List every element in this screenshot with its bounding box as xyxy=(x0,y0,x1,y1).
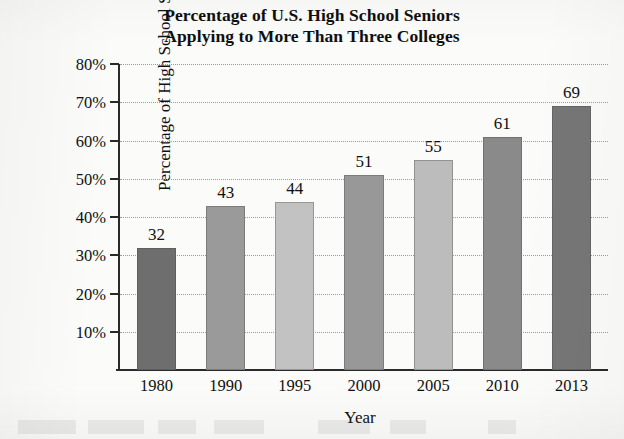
chart-title-line-1: Percentage of U.S. High School Seniors xyxy=(0,5,624,26)
bars-group: 3219804319904419955120005520056120106920… xyxy=(118,64,602,370)
bar-value-label: 69 xyxy=(538,83,605,103)
plot-area: 10%20%30%40%50%60%70%80% 321980431990441… xyxy=(118,64,602,370)
bar[interactable] xyxy=(414,160,453,370)
bar-group: 441995 xyxy=(275,64,314,370)
y-axis-tick-label: 50% xyxy=(76,170,106,190)
bar[interactable] xyxy=(275,202,314,370)
y-axis-tick-label: 10% xyxy=(76,323,106,343)
x-axis-tick-label: 2005 xyxy=(398,376,469,396)
x-axis-tick-label: 2010 xyxy=(467,376,538,396)
bar-group: 321980 xyxy=(137,64,176,370)
bar-value-label: 51 xyxy=(330,152,397,172)
bar[interactable] xyxy=(206,206,245,370)
bar-value-label: 32 xyxy=(123,225,190,245)
bar-group: 431990 xyxy=(206,64,245,370)
bar-value-label: 43 xyxy=(192,183,259,203)
chart-title: Percentage of U.S. High School Seniors A… xyxy=(0,5,624,47)
bar-value-label: 44 xyxy=(261,179,328,199)
y-axis-tick-label: 60% xyxy=(76,132,106,152)
bar-chart-figure: Percentage of U.S. High School Seniors A… xyxy=(0,0,624,439)
bar-group: 612010 xyxy=(483,64,522,370)
bar-group: 512000 xyxy=(344,64,383,370)
y-axis-tick-label: 70% xyxy=(76,93,106,113)
bar[interactable] xyxy=(137,248,176,370)
y-axis-tick-label: 80% xyxy=(76,55,106,75)
x-axis-tick-label: 2013 xyxy=(536,376,607,396)
y-axis-tick-label: 30% xyxy=(76,246,106,266)
x-axis-tick-label: 1980 xyxy=(121,376,192,396)
y-axis-title: Percentage of High School Seniors xyxy=(12,0,38,84)
bar[interactable] xyxy=(344,175,383,370)
y-axis-tick-label: 40% xyxy=(76,208,106,228)
bar-group: 692013 xyxy=(552,64,591,370)
x-axis-tick-label: 1995 xyxy=(259,376,330,396)
bar-group: 552005 xyxy=(414,64,453,370)
bar-value-label: 61 xyxy=(469,114,536,134)
x-axis-tick-label: 1990 xyxy=(190,376,261,396)
bar[interactable] xyxy=(552,106,591,370)
page-bleed-through xyxy=(18,420,578,434)
bar[interactable] xyxy=(483,137,522,370)
chart-title-line-2: Applying to More Than Three Colleges xyxy=(0,26,624,47)
y-axis-tick-label: 20% xyxy=(76,285,106,305)
bar-value-label: 55 xyxy=(400,137,467,157)
x-axis-tick-label: 2000 xyxy=(328,376,399,396)
